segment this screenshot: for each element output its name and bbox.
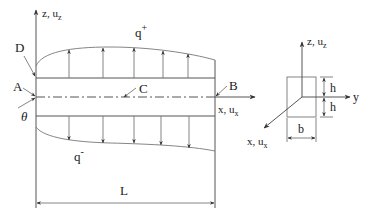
cs-x-label: x, ux	[247, 135, 268, 150]
h-lower-label: h	[330, 100, 336, 114]
length-label: L	[120, 183, 128, 198]
point-A-label: A	[13, 79, 23, 94]
q-plus-arrows	[69, 48, 188, 78]
cs-x-axis	[264, 97, 302, 128]
q-plus-label: q+	[135, 22, 148, 40]
theta-leader	[18, 98, 35, 108]
cs-y-label: y	[353, 90, 359, 104]
cs-z-label: z, uz	[307, 35, 327, 50]
point-B-label: B	[229, 78, 238, 93]
theta-label: θ	[21, 109, 28, 124]
point-A-leader	[23, 88, 35, 96]
q-minus-label: q-	[74, 146, 84, 164]
b-label: b	[298, 122, 304, 136]
point-D-label: D	[15, 40, 24, 55]
q-minus-curve	[36, 127, 215, 151]
beam-diagram: z, uz x, ux q+ q- D	[0, 0, 372, 219]
beam-view: z, uz x, ux q+ q- D	[13, 7, 255, 208]
h-upper-label: h	[330, 81, 336, 95]
point-B-leader	[216, 86, 227, 96]
point-C-label: C	[139, 81, 148, 96]
x-axis-label: x, ux	[218, 103, 239, 118]
point-C-leader	[124, 88, 136, 97]
cross-section: z, uz y x, ux h h b	[247, 35, 359, 150]
point-D-leader	[24, 56, 35, 76]
z-axis-label: z, uz	[42, 7, 62, 22]
